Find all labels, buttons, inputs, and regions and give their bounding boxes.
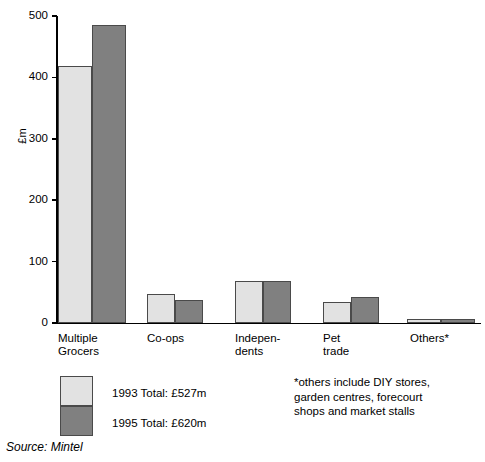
legend-swatch-stack	[60, 376, 93, 436]
bar-1995-co-ops	[175, 300, 203, 323]
bar-group-others	[407, 16, 475, 323]
bar-1993-independents	[235, 281, 263, 323]
bar-group-multiple-grocers	[58, 16, 126, 323]
legend-label-1993: 1993 Total: £527m	[112, 387, 206, 399]
plot-area	[57, 16, 481, 323]
chart-footnote: *others include DIY stores, garden centr…	[294, 375, 484, 419]
bar-chart: £m 5004003002001000 Multiple GrocersCo-o…	[0, 0, 485, 462]
bar-1993-pet-trade	[323, 302, 351, 323]
x-axis-label-multiple-grocers: Multiple Grocers	[58, 332, 138, 358]
y-axis-tick-label-0: 0	[6, 317, 48, 329]
y-axis-tick-label-300: 300	[6, 133, 48, 145]
bar-1993-multiple-grocers	[58, 66, 92, 323]
x-axis-line	[56, 323, 481, 325]
bar-group-pet-trade	[323, 16, 379, 323]
legend-swatch-1995	[60, 406, 93, 436]
legend-swatch-1993	[60, 376, 93, 406]
chart-source: Source: Mintel	[6, 440, 83, 454]
x-axis-label-independents: Indepen- dents	[235, 332, 305, 358]
x-axis-label-others: Others*	[410, 332, 480, 345]
y-axis-tick-label-200: 200	[6, 194, 48, 206]
y-axis-tick-label-500: 500	[6, 10, 48, 22]
bar-1993-co-ops	[147, 294, 175, 323]
y-axis-tick-label-100: 100	[6, 256, 48, 268]
bar-1995-independents	[263, 281, 291, 323]
bar-group-co-ops	[147, 16, 203, 323]
x-axis-label-pet-trade: Pet trade	[323, 332, 383, 358]
y-axis-tick-label-400: 400	[6, 71, 48, 83]
bar-group-independents	[235, 16, 291, 323]
legend-label-1995: 1995 Total: £620m	[112, 417, 206, 429]
bar-1995-pet-trade	[351, 297, 379, 323]
bar-1995-multiple-grocers	[92, 25, 126, 323]
x-axis-label-co-ops: Co-ops	[147, 332, 217, 345]
